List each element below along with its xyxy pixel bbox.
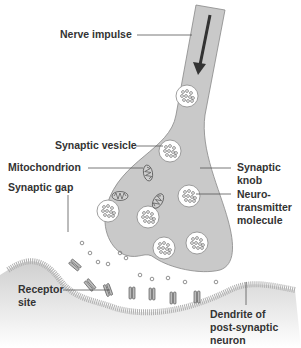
label-synaptic-vesicle: Synaptic vesicle [55, 139, 137, 152]
label-synaptic-gap: Synaptic gap [8, 181, 73, 194]
label-mitochondrion: Mitochondrion [8, 161, 81, 174]
label-dendrite: Dendrite ofpost-synapticneuron [210, 308, 278, 347]
label-nerve-impulse: Nerve impulse [60, 28, 132, 41]
label-receptor-site: Receptorsite [18, 283, 64, 309]
label-neurotransmitter: Neuro-transmittermolecule [237, 188, 292, 227]
label-synaptic-knob: Synapticknob [237, 161, 281, 187]
